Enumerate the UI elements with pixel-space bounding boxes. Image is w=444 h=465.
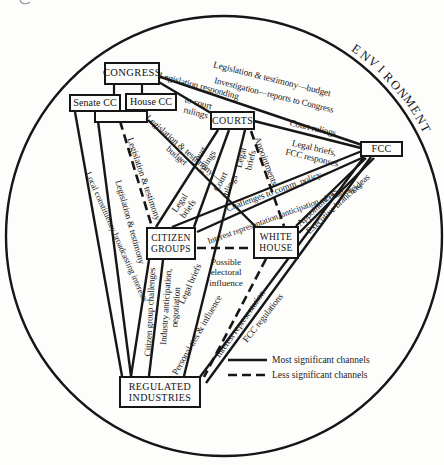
node-house-cc: House CC <box>125 93 177 111</box>
node-citizen-groups: CITIZEN GROUPS <box>146 227 196 260</box>
node-senate-cc: Senate CC <box>69 94 121 112</box>
node-white-house-label: WHITE HOUSE <box>259 232 293 254</box>
node-white-house: WHITE HOUSE <box>253 226 299 259</box>
node-congress: CONGRESS <box>104 62 160 85</box>
legend-less-significant: Less significant channels <box>272 370 368 380</box>
node-fcc-label: FCC <box>371 143 391 155</box>
edge-label-possible-electoral: Possible electoral influence <box>209 257 242 288</box>
node-congress-label: CONGRESS <box>103 67 161 79</box>
broadcast-policy-diagram: CONGRESS Senate CC House CC COURTS FCC C… <box>0 0 444 465</box>
legend-most-significant: Most significant channels <box>272 355 370 365</box>
node-house-cc-label: House CC <box>130 96 172 108</box>
node-senate-cc-label: Senate CC <box>73 97 116 109</box>
node-citizen-groups-label: CITIZEN GROUPS <box>151 233 191 255</box>
node-courts-label: COURTS <box>212 115 253 127</box>
node-courts: COURTS <box>210 111 255 130</box>
node-regulated-industries: REGULATED INDUSTRIES <box>119 376 201 408</box>
cropped-figure-mark <box>20 0 30 4</box>
node-fcc: FCC <box>360 141 403 157</box>
node-regulated-industries-label: REGULATED INDUSTRIES <box>129 381 191 404</box>
